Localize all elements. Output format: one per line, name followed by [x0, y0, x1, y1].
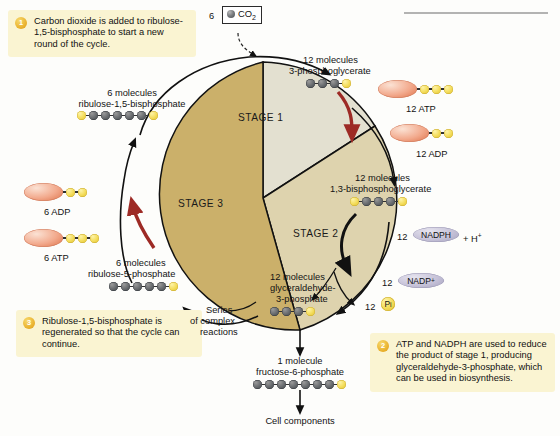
adp-left-label: 6 ADP [44, 207, 70, 218]
carbon-bead [313, 380, 322, 389]
phosphate-bead [444, 129, 453, 138]
adp-top-group [390, 124, 453, 142]
g3p-name-line1: glyceraldehyde- [270, 283, 336, 294]
carbon-bead [125, 111, 134, 120]
carbon-bead [374, 197, 383, 206]
co2-count: 6 [209, 11, 214, 22]
carbon-bead [306, 79, 315, 88]
diagram-canvas: 1 Carbon dioxide is added to ribulose-1,… [0, 0, 560, 436]
callout-2-text: ATP and NADPH are used to reduce the pro… [396, 339, 547, 385]
phosphate-bead [77, 111, 86, 120]
carbon-bead [289, 380, 298, 389]
carbon-bead [109, 282, 118, 291]
nadph-ellipse: NADPH [413, 227, 459, 242]
adp-top-ellipse [390, 124, 429, 142]
phosphate-bead [398, 197, 407, 206]
callout-2-badge: 2 [377, 340, 389, 352]
stage-2-label: STAGE 2 [293, 228, 338, 239]
carbon-bead [270, 307, 279, 316]
callout-1-badge: 1 [15, 17, 27, 29]
phosphate-bead [420, 85, 429, 94]
atp-left-ellipse [24, 229, 63, 247]
callout-3-badge: 3 [23, 317, 35, 329]
cell-components-label: Cell components [245, 416, 355, 427]
phosphate-bead [432, 129, 441, 138]
phosphate-bead [342, 79, 351, 88]
phosphate-bead [66, 234, 75, 243]
carbon-bead [325, 380, 334, 389]
carbon-bead [253, 380, 262, 389]
phosphate-bead [337, 380, 346, 389]
rubp-molecule [77, 111, 158, 120]
callout-step-2: 2 ATP and NADPH are used to reduce the p… [370, 333, 555, 392]
rubp-count: 6 molecules [52, 88, 212, 99]
stage-3-label: STAGE 3 [178, 198, 223, 209]
phosphate-bead [90, 234, 99, 243]
series-line-3: reactions [200, 327, 238, 338]
carbon-bead [265, 380, 274, 389]
series-line-1: Series [206, 305, 232, 316]
pi-circle: Pi [381, 297, 395, 311]
stage-1-label: STAGE 1 [238, 112, 283, 123]
pga-molecule [306, 79, 351, 88]
carbon-bead [318, 79, 327, 88]
pi-count: 12 [365, 302, 375, 313]
atp-left-phosphates [66, 234, 99, 243]
f6p-molecule [253, 380, 346, 389]
carbon-bead [133, 282, 142, 291]
pga-name: 3-phosphoglycerate [289, 66, 371, 77]
f6p-name: fructose-6-phosphate [230, 367, 370, 378]
ru5p-count: 6 molecules [116, 258, 166, 269]
nadp-ellipse: NADP+ [398, 273, 444, 288]
carbon-bead [89, 111, 98, 120]
co2-box: CO2 [222, 6, 262, 24]
co2-label: CO2 [238, 8, 256, 21]
phosphate-bead [350, 197, 359, 206]
atp-to-adp-arrow-left [133, 206, 154, 248]
adp-top-phosphates [432, 129, 453, 138]
phosphate-bead [432, 85, 441, 94]
bpg-name: 1,3-bisphosphoglycerate [330, 184, 431, 195]
phosphate-bead [78, 188, 87, 197]
carbon-bead [113, 111, 122, 120]
pga-count: 12 molecules [303, 55, 358, 66]
atp-top-ellipse [378, 80, 417, 98]
g3p-molecule [270, 307, 315, 316]
callout-3-text: Ribulose-1,5-bisphosphate is regenerated… [42, 316, 194, 350]
nadph-count: 12 [397, 232, 407, 243]
series-line-2: of complex [190, 316, 235, 327]
phosphate-bead [169, 282, 178, 291]
nadph-suffix: + H+ [463, 230, 482, 245]
carbon-bead [157, 282, 166, 291]
carbon-bead [330, 79, 339, 88]
g3p-name-line2: 3-phosphate [276, 294, 328, 305]
co2-entry-arrow [238, 33, 254, 55]
callout-step-3: 3 Ribulose-1,5-bisphosphate is regenerat… [16, 310, 202, 357]
adp-left-phosphates [66, 188, 87, 197]
nadp-count: 12 [382, 278, 392, 289]
callout-1-text: Carbon dioxide is added to ribulose-1,5-… [34, 16, 188, 50]
ru5p-molecule [109, 282, 178, 291]
bpg-molecule [350, 197, 407, 206]
carbon-bead [362, 197, 371, 206]
atp-top-phosphates [420, 85, 453, 94]
ru5p-name: ribulose-5-phosphate [88, 269, 175, 280]
co2-molecule-icon [227, 10, 235, 18]
adp-top-label: 12 ADP [416, 149, 448, 160]
atp-top-group [378, 80, 453, 98]
atp-left-group [24, 229, 99, 247]
carbon-bead [386, 197, 395, 206]
carbon-bead [277, 380, 286, 389]
g3p-count: 12 molecules [270, 272, 325, 283]
atp-top-label: 12 ATP [406, 104, 436, 115]
callout-step-1: 1 Carbon dioxide is added to ribulose-1,… [8, 10, 196, 57]
adp-left-group [24, 183, 87, 201]
rubp-name: ribulose-1,5-bisphosphate [42, 99, 222, 110]
carbon-bead [101, 111, 110, 120]
bpg-count: 12 molecules [355, 173, 410, 184]
carbon-bead [121, 282, 130, 291]
phosphate-bead [66, 188, 75, 197]
carbon-bead [294, 307, 303, 316]
phosphate-bead [306, 307, 315, 316]
phosphate-bead [444, 85, 453, 94]
